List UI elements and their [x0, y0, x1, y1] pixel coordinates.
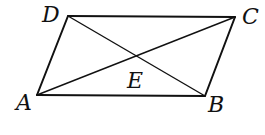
side-bc	[205, 17, 235, 96]
intersection-label-e: E	[126, 68, 143, 93]
vertex-label-c: C	[242, 4, 259, 29]
vertex-label-d: D	[41, 2, 60, 27]
vertex-label-a: A	[14, 90, 32, 115]
vertex-label-b: B	[207, 92, 224, 117]
side-da	[37, 16, 68, 95]
side-ab	[37, 95, 205, 96]
side-cd	[68, 16, 235, 17]
parallelogram-diagram: D C A B E	[0, 0, 265, 135]
